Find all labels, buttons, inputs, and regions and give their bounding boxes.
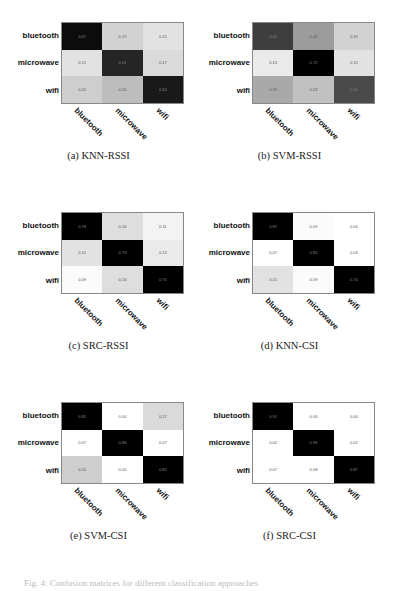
row-label-bluetooth: bluetooth [23,411,59,420]
subfigure-caption: (c) SRC-RSSI [0,340,197,351]
row-label-wifi: wifi [46,86,59,95]
matrix-cell: 0.32 [293,23,333,50]
matrix-cell: 0.19 [102,23,142,50]
col-label-microwave: microwave [305,486,341,522]
matrix-cell: 0.07 [253,456,293,483]
row-label-bluetooth: bluetooth [23,31,59,40]
matrix-cell: 0.13 [253,50,293,77]
confusion-matrix: 0.870.090.040.070.850.040.150.090.74 [252,212,375,294]
col-label-bluetooth: bluetooth [264,486,296,518]
matrix-cell: 0.04 [334,213,374,240]
matrix-cell: 0.87 [253,213,293,240]
col-label-microwave: microwave [114,296,150,332]
matrix-cell: 0.06 [293,403,333,430]
matrix-cell: 0.15 [62,50,102,77]
matrix-cell: 0.81 [62,403,102,430]
matrix-cell: 0.17 [143,403,183,430]
matrix-cell: 0.20 [62,76,102,103]
col-label-bluetooth: bluetooth [264,296,296,328]
row-label-microwave: microwave [18,248,59,257]
matrix-cell: 0.09 [293,266,333,293]
panel-knn-csi: bluetoothmicrowavewifi0.870.090.040.070.… [191,190,388,380]
row-label-bluetooth: bluetooth [214,31,250,40]
matrix-cell: 0.86 [102,430,142,457]
matrix-cell: 0.15 [334,50,374,77]
row-label-wifi: wifi [237,86,250,95]
matrix-cell: 0.23 [293,76,333,103]
matrix-cell: 0.91 [253,403,293,430]
col-label-bluetooth: bluetooth [73,486,105,518]
matrix-cell: 0.02 [334,430,374,457]
row-label-bluetooth: bluetooth [214,411,250,420]
row-label-wifi: wifi [46,276,59,285]
subfigure-caption: (f) SRC-CSI [191,530,388,541]
matrix-cell: 0.04 [334,403,374,430]
matrix-cell: 0.00 [102,456,142,483]
matrix-cell: 0.07 [62,430,102,457]
matrix-cell: 0.24 [102,76,142,103]
matrix-cell: 0.15 [143,23,183,50]
matrix-cell: 0.16 [102,213,142,240]
col-label-bluetooth: bluetooth [73,296,105,328]
row-label-microwave: microwave [18,438,59,447]
matrix-cell: 0.16 [102,266,142,293]
matrix-cell: 0.19 [334,23,374,50]
col-label-wifi: wifi [346,296,362,312]
confusion-matrix: 0.810.000.170.070.860.070.200.000.81 [61,402,184,484]
matrix-cell: 0.78 [62,213,102,240]
row-label-wifi: wifi [237,466,250,475]
panel-svm-rssi: bluetoothmicrowavewifi0.550.320.190.130.… [191,0,388,190]
col-label-microwave: microwave [305,296,341,332]
confusion-matrix: 0.910.060.040.020.960.020.070.080.87 [252,402,375,484]
matrix-cell: 0.07 [143,430,183,457]
matrix-cell: 0.29 [253,76,293,103]
confusion-matrix: 0.780.160.110.150.730.130.090.160.75 [61,212,184,294]
matrix-cell: 0.96 [293,430,333,457]
matrix-cell: 0.09 [293,213,333,240]
col-label-wifi: wifi [155,486,171,502]
matrix-cell: 0.08 [293,456,333,483]
row-label-microwave: microwave [209,58,250,67]
matrix-cell: 0.74 [334,266,374,293]
confusion-matrix: 0.670.190.150.150.610.170.200.240.64 [61,22,184,104]
matrix-cell: 0.13 [143,240,183,267]
col-label-wifi: wifi [155,106,171,122]
row-label-microwave: microwave [209,248,250,257]
row-label-bluetooth: bluetooth [214,221,250,230]
matrix-cell: 0.20 [62,456,102,483]
subfigure-caption: (d) KNN-CSI [191,340,388,351]
col-label-microwave: microwave [305,106,341,142]
row-label-microwave: microwave [18,58,59,67]
panel-src-rssi: bluetoothmicrowavewifi0.780.160.110.150.… [0,190,197,380]
matrix-cell: 0.87 [334,456,374,483]
matrix-cell: 0.09 [62,266,102,293]
subfigure-caption: (a) KNN-RSSI [0,150,197,161]
matrix-cell: 0.81 [143,456,183,483]
matrix-cell: 0.15 [253,266,293,293]
matrix-cell: 0.72 [293,50,333,77]
col-label-microwave: microwave [114,486,150,522]
col-label-wifi: wifi [346,106,362,122]
matrix-cell: 0.17 [143,50,183,77]
matrix-cell: 0.07 [253,240,293,267]
matrix-cell: 0.11 [143,213,183,240]
matrix-cell: 0.67 [62,23,102,50]
col-label-wifi: wifi [346,486,362,502]
row-label-wifi: wifi [237,276,250,285]
panel-svm-csi: bluetoothmicrowavewifi0.810.000.170.070.… [0,380,197,570]
matrix-cell: 0.73 [102,240,142,267]
matrix-cell: 0.64 [143,76,183,103]
subfigure-caption: (e) SVM-CSI [0,530,197,541]
panel-src-csi: bluetoothmicrowavewifi0.910.060.040.020.… [191,380,388,570]
col-label-bluetooth: bluetooth [264,106,296,138]
col-label-bluetooth: bluetooth [73,106,105,138]
matrix-cell: 0.61 [102,50,142,77]
row-label-bluetooth: bluetooth [23,221,59,230]
panel-knn-rssi: bluetoothmicrowavewifi0.670.190.150.150.… [0,0,197,190]
confusion-matrix: 0.550.320.190.130.720.150.290.230.52 [252,22,375,104]
matrix-cell: 0.00 [102,403,142,430]
figure-caption: Fig. 4: Confusion matrices for different… [24,578,384,588]
matrix-cell: 0.15 [62,240,102,267]
row-label-microwave: microwave [209,438,250,447]
matrix-cell: 0.85 [293,240,333,267]
